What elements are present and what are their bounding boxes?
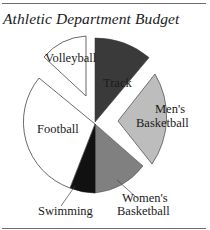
label-volleyball: Volleyball — [45, 51, 97, 65]
label-football: Football — [37, 122, 79, 136]
label-womens-line1: Women's — [122, 191, 168, 205]
label-womens-line2: Basketball — [117, 204, 170, 218]
label-swimming: Swimming — [38, 204, 94, 218]
label-track: Track — [103, 76, 132, 90]
label-mens-line1: Men's — [155, 102, 185, 116]
pie-chart: Volleyball Track Men's Basketball Footba… — [0, 0, 210, 230]
leader-swimming — [61, 186, 75, 206]
label-mens-line2: Basketball — [136, 116, 189, 130]
bottom-rule — [2, 228, 206, 229]
